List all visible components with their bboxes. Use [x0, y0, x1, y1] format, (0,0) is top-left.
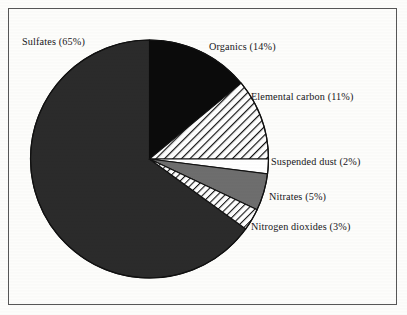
pie-chart: Sulfates (65%) Organics (14%) Elemental … [0, 0, 407, 315]
pie-label-organics: Organics (14%) [209, 41, 276, 52]
pie-label-elemental-carbon: Elemental carbon (11%) [251, 91, 354, 102]
pie-label-suspended-dust: Suspended dust (2%) [271, 156, 360, 167]
pie-label-sulfates: Sulfates (65%) [22, 36, 85, 47]
pie-label-nitrates: Nitrates (5%) [269, 191, 326, 202]
figure-page: Sulfates (65%) Organics (14%) Elemental … [0, 0, 407, 315]
pie-label-nitrogen-dioxides: Nitrogen dioxides (3%) [251, 221, 351, 232]
